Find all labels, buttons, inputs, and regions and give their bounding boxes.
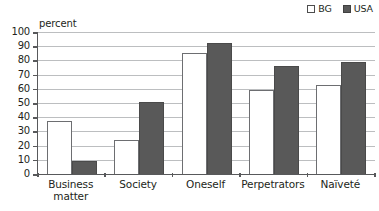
bar-bg (249, 90, 274, 174)
y-axis-tick-label: 10 (18, 154, 30, 165)
x-axis-labels: Business matterSocietyOneselfPerpetrator… (37, 178, 374, 202)
chart-legend: BG USA (307, 4, 373, 14)
bar-bg (47, 121, 72, 174)
bar-group (105, 32, 172, 174)
bar-group (38, 32, 105, 174)
x-axis-tick-mark (104, 173, 106, 177)
x-axis-tick-mark (307, 173, 309, 177)
plot-area (37, 32, 375, 175)
legend-entry-usa: USA (343, 4, 373, 14)
y-axis-tick-label: 90 (18, 40, 30, 51)
empty-square-icon (307, 5, 315, 13)
y-axis-tick-label: 20 (18, 140, 30, 151)
x-axis-category-label: Naïveté (307, 178, 374, 202)
y-axis-tick-label: 100 (12, 26, 31, 37)
bar-bg (114, 140, 139, 174)
x-axis-category-label: Business matter (37, 178, 104, 202)
y-axis-tick-label: 30 (18, 125, 30, 136)
y-axis-tick-label: 60 (18, 83, 30, 94)
y-axis-tick-label: 50 (18, 97, 30, 108)
bar-usa (274, 66, 299, 174)
x-axis-tick-mark (172, 173, 174, 177)
bar-group (308, 32, 375, 174)
bar-group (240, 32, 307, 174)
y-axis-tick-label: 70 (18, 69, 30, 80)
legend-entry-bg: BG (307, 4, 332, 14)
bar-bg (316, 85, 341, 174)
bars-layer (38, 32, 375, 174)
filled-square-icon (343, 5, 351, 13)
bar-group (173, 32, 240, 174)
y-axis-ticks: 1009080706050403020100 (0, 32, 37, 174)
bar-usa (139, 102, 164, 174)
x-axis-category-label: Oneself (172, 178, 239, 202)
legend-label-bg: BG (318, 4, 332, 14)
bar-usa (341, 62, 366, 174)
y-axis-tick-label: 80 (18, 54, 30, 65)
x-axis-tick-mark (374, 173, 376, 177)
y-axis-tick-label: 40 (18, 111, 30, 122)
bar-chart-figure: BG USA percent 1009080706050403020100 Bu… (0, 0, 379, 211)
x-axis-tick-mark (239, 173, 241, 177)
x-axis-tick-mark (37, 173, 39, 177)
bar-bg (182, 53, 207, 174)
x-axis-category-label: Society (104, 178, 171, 202)
y-axis-title: percent (39, 18, 77, 29)
y-axis-tick-label: 0 (24, 168, 30, 179)
legend-label-usa: USA (354, 4, 373, 14)
x-axis-category-label: Perpetrators (239, 178, 306, 202)
bar-usa (207, 43, 232, 174)
